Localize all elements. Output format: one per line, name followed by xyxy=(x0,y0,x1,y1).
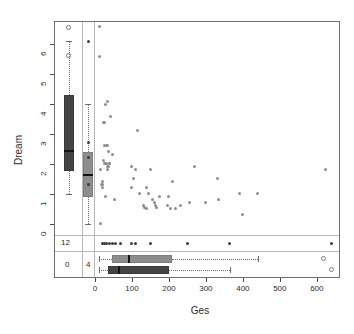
missing-x-count-label: 4 xyxy=(86,261,90,269)
boxplot-cap-lower xyxy=(99,267,100,273)
y-tick xyxy=(50,194,54,195)
data-point xyxy=(145,207,148,210)
panel-separator-mid xyxy=(94,22,95,277)
x-tick-label: 400 xyxy=(229,285,257,293)
x-tick-label: 0 xyxy=(81,285,109,293)
data-point xyxy=(188,201,191,204)
missing-both-count-label: 0 xyxy=(65,261,69,269)
x-tick-label: 100 xyxy=(118,285,146,293)
missing-x-point xyxy=(87,183,90,186)
y-tick-label: 1 xyxy=(40,182,48,206)
y-tick xyxy=(50,74,54,75)
missing-y-point xyxy=(186,242,189,245)
boxplot-median xyxy=(118,266,120,274)
x-tick-label: 300 xyxy=(192,285,220,293)
data-point xyxy=(193,165,196,168)
missing-y-point xyxy=(119,242,122,245)
data-point xyxy=(113,198,116,201)
x-tick xyxy=(280,278,281,282)
boxplot-whisker-upper xyxy=(88,104,89,152)
boxplot-median xyxy=(128,255,130,263)
scatterplot-figure: 0100200300400500600 0123456 Ges Dream 12… xyxy=(0,0,354,334)
x-tick xyxy=(317,278,318,282)
x-tick-label: 600 xyxy=(303,285,331,293)
y-tick-label: 3 xyxy=(40,122,48,146)
panel-separator-upper xyxy=(55,235,339,236)
boxplot-whisker-upper xyxy=(69,41,70,95)
x-tick xyxy=(243,278,244,282)
panel-separator-lower xyxy=(55,251,339,252)
boxplot-box xyxy=(64,95,74,171)
plot-frame xyxy=(54,21,340,278)
panel-separator-left xyxy=(82,22,83,277)
missing-y-point xyxy=(149,242,152,245)
boxplot-cap-lower xyxy=(66,194,72,195)
missing-y-count-label: 12 xyxy=(61,239,70,247)
boxplot-whisker-upper xyxy=(172,259,258,260)
data-point xyxy=(104,103,107,106)
y-tick xyxy=(50,224,54,225)
data-point xyxy=(101,186,104,189)
boxplot-median xyxy=(83,174,93,176)
y-tick-label: 0 xyxy=(40,212,48,236)
y-tick xyxy=(50,164,54,165)
x-tick xyxy=(206,278,207,282)
data-point xyxy=(216,177,219,180)
y-tick xyxy=(50,44,54,45)
boxplot-cap-lower xyxy=(85,224,91,225)
boxplot-cap-upper xyxy=(85,104,91,105)
data-point xyxy=(103,121,106,124)
y-tick-label: 5 xyxy=(40,62,48,86)
data-point xyxy=(155,206,158,209)
data-point xyxy=(238,192,241,195)
x-axis-title: Ges xyxy=(140,306,260,316)
x-tick xyxy=(169,278,170,282)
boxplot-whisker-lower xyxy=(99,259,112,260)
missing-x-point xyxy=(87,40,90,43)
boxplot-whisker-lower xyxy=(69,171,70,193)
x-tick-label: 200 xyxy=(155,285,183,293)
boxplot-box xyxy=(112,255,172,263)
boxplot-median xyxy=(64,150,74,152)
data-point xyxy=(109,115,112,118)
data-point xyxy=(166,204,169,207)
x-tick xyxy=(95,278,96,282)
boxplot-whisker-lower xyxy=(99,270,108,271)
data-point xyxy=(98,55,101,58)
boxplot-whisker-upper xyxy=(169,270,230,271)
y-tick-label: 6 xyxy=(40,32,48,56)
boxplot-box xyxy=(108,266,169,274)
y-tick xyxy=(50,134,54,135)
boxplot-cap-upper xyxy=(258,256,259,262)
boxplot-outlier xyxy=(66,25,71,30)
y-tick-label: 4 xyxy=(40,92,48,116)
x-tick xyxy=(132,278,133,282)
data-point xyxy=(179,204,182,207)
y-tick xyxy=(50,104,54,105)
y-tick-label: 2 xyxy=(40,152,48,176)
data-point xyxy=(106,100,109,103)
boxplot-cap-upper xyxy=(66,41,72,42)
boxplot-whisker-lower xyxy=(88,197,89,224)
x-tick-label: 500 xyxy=(266,285,294,293)
data-point xyxy=(98,25,101,28)
boxplot-outlier xyxy=(329,267,334,272)
boxplot-cap-lower xyxy=(99,256,100,262)
y-axis-title: Dream xyxy=(14,90,24,210)
boxplot-cap-upper xyxy=(230,267,231,273)
